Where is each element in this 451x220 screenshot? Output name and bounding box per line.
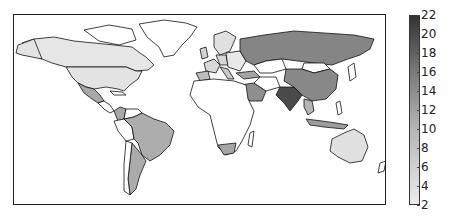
- region-thailand: [304, 99, 314, 115]
- map-plot-area: [13, 14, 386, 205]
- world-map: [14, 15, 386, 205]
- region-scandinavia: [214, 31, 236, 55]
- region-australia: [330, 129, 368, 163]
- region-indonesia: [306, 119, 348, 129]
- region-japan: [348, 63, 356, 81]
- region-greenland: [139, 20, 197, 57]
- region-uk: [200, 47, 208, 59]
- region-cuba: [110, 91, 126, 95]
- region-italy: [220, 67, 234, 79]
- colorbar-tick-label: 4: [421, 180, 429, 192]
- colorbar-tick-label: 18: [421, 47, 436, 59]
- region-turkey: [236, 71, 260, 79]
- region-united-states: [66, 67, 142, 91]
- colorbar-tick-label: 14: [421, 85, 436, 97]
- region-south-africa: [218, 143, 236, 155]
- region-philippines: [336, 101, 342, 115]
- colorbar-tick-label: 8: [421, 142, 429, 154]
- colorbar-tick-label: 6: [421, 161, 429, 173]
- colorbar-tick-label: 2: [421, 199, 429, 211]
- colorbar-tick-label: 12: [421, 104, 436, 116]
- region-new-zealand: [378, 161, 386, 173]
- region-india: [276, 87, 302, 111]
- region-madagascar: [248, 131, 254, 147]
- region-canada: [22, 37, 154, 71]
- region-central-america: [98, 101, 114, 113]
- colorbar-tick-label: 10: [421, 123, 436, 135]
- region-arctic-islands: [84, 25, 136, 45]
- region-africa: [190, 79, 254, 155]
- colorbar-tick-label: 16: [421, 66, 436, 78]
- region-russia: [240, 31, 374, 65]
- colorbar-tick-label: 20: [421, 28, 436, 40]
- colorbar-tick-label: 22: [421, 9, 436, 21]
